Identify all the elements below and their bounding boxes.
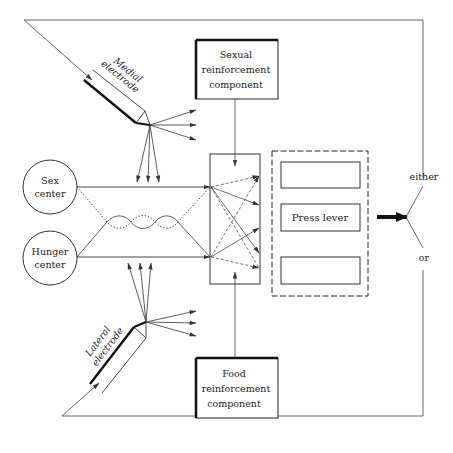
svg-text:reinforcement: reinforcement bbox=[202, 64, 271, 75]
press-lever-label: Press lever bbox=[292, 212, 349, 223]
hunger-center: Hunger center bbox=[23, 231, 77, 285]
svg-text:Hunger: Hunger bbox=[32, 246, 69, 257]
svg-text:Sex: Sex bbox=[41, 175, 59, 186]
sex-center-to-switch bbox=[77, 187, 210, 228]
medial-electrode-label: Medial electrode bbox=[99, 50, 148, 95]
choice-branch bbox=[406, 186, 423, 248]
svg-text:center: center bbox=[34, 259, 66, 270]
response-slot-top bbox=[281, 162, 360, 188]
svg-text:component: component bbox=[207, 398, 261, 409]
response-panel: Press lever bbox=[272, 151, 368, 296]
svg-text:reinforcement: reinforcement bbox=[202, 383, 271, 394]
hunger-center-to-switch bbox=[77, 216, 210, 257]
svg-text:Food: Food bbox=[222, 368, 246, 379]
svg-text:Sexual: Sexual bbox=[220, 49, 252, 60]
motivation-circuit-diagram: Medial electrode Sexual reinforcement co… bbox=[0, 0, 453, 453]
medial-electrode: Medial electrode bbox=[84, 50, 150, 125]
medial-electrode-arrows bbox=[137, 110, 196, 182]
lateral-electrode-label: Lateral electrode bbox=[80, 318, 125, 368]
either-label: either bbox=[410, 171, 439, 182]
food-reinforcement-component: Food reinforcement component bbox=[196, 358, 278, 418]
lateral-electrode: Lateral electrode bbox=[80, 318, 146, 393]
sex-center: Sex center bbox=[23, 160, 77, 214]
or-label: or bbox=[419, 252, 430, 263]
svg-text:component: component bbox=[209, 79, 263, 90]
switching-box bbox=[210, 154, 260, 284]
response-slot-bottom bbox=[281, 257, 360, 284]
svg-text:center: center bbox=[34, 188, 66, 199]
sexual-reinforcement-component: Sexual reinforcement component bbox=[196, 40, 278, 99]
